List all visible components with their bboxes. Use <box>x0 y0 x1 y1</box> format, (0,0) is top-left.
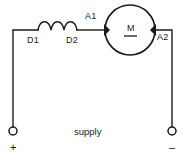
wire-right-supply <box>155 30 172 127</box>
negative-terminal-label: – <box>169 142 175 153</box>
label-a1: A1 <box>85 12 96 21</box>
field-winding-coil <box>38 22 77 30</box>
label-a2: A2 <box>157 33 168 42</box>
circuit-schematic-svg <box>0 0 184 162</box>
supply-label: supply <box>74 127 101 137</box>
positive-terminal-ring <box>9 127 17 135</box>
positive-terminal-label: + <box>10 142 16 153</box>
negative-terminal-ring <box>168 127 176 135</box>
motor-symbol-label: M <box>127 24 135 33</box>
label-d2: D2 <box>66 36 78 45</box>
label-d1: D1 <box>27 36 39 45</box>
circuit-diagram: D1 D2 A1 A2 M supply + – <box>0 0 184 162</box>
